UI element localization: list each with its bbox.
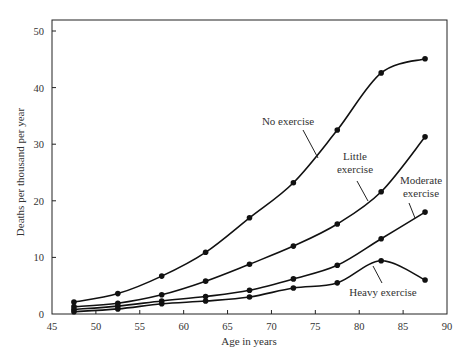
y-tick-label: 50 [34, 26, 45, 37]
x-tick-label: 70 [266, 321, 277, 332]
data-point [71, 309, 77, 315]
x-tick-label: 50 [91, 321, 102, 332]
chart-series [71, 56, 428, 315]
y-tick-label: 30 [34, 139, 45, 150]
data-point [291, 180, 297, 186]
data-point [291, 285, 297, 291]
data-point [291, 243, 297, 249]
data-point [378, 70, 384, 76]
line-chart: 4550556065707580859001020304050 No exerc… [0, 0, 467, 358]
data-point [247, 294, 253, 300]
data-point [422, 56, 428, 62]
x-tick-label: 90 [442, 321, 453, 332]
data-point [334, 280, 340, 286]
pointer-line [373, 266, 382, 283]
data-point [203, 250, 209, 256]
data-point [334, 263, 340, 269]
x-axis-label: Age in years [221, 335, 277, 347]
y-tick-label: 0 [39, 309, 44, 320]
pointer-line [303, 130, 318, 158]
x-tick-label: 55 [135, 321, 146, 332]
y-tick-label: 10 [34, 252, 45, 263]
data-point [115, 306, 121, 312]
series-labels: No exerciseLittleexerciseModerateexercis… [262, 115, 442, 298]
x-tick-label: 80 [354, 321, 365, 332]
series-label-no-exercise: No exercise [262, 115, 314, 127]
plot-frame [52, 20, 447, 314]
data-point [378, 258, 384, 264]
y-tick-label: 40 [34, 83, 45, 94]
data-point [334, 221, 340, 227]
data-point [378, 189, 384, 195]
pointer-line [409, 203, 415, 218]
series-little-exercise [71, 134, 428, 309]
x-tick-label: 45 [47, 321, 58, 332]
data-point [422, 134, 428, 140]
data-point [291, 276, 297, 282]
data-point [247, 287, 253, 293]
x-tick-label: 85 [398, 321, 409, 332]
data-point [247, 215, 253, 221]
data-point [159, 292, 165, 298]
data-point [378, 236, 384, 242]
data-point [203, 298, 209, 304]
data-point [422, 277, 428, 283]
data-point [159, 301, 165, 307]
y-tick-label: 20 [34, 196, 45, 207]
pointer-line [357, 181, 368, 201]
x-tick-label: 60 [178, 321, 189, 332]
series-label-moderate-exercise: Moderateexercise [400, 174, 442, 199]
x-tick-label: 65 [222, 321, 233, 332]
series-label-little-exercise: Littleexercise [337, 150, 373, 175]
data-point [247, 261, 253, 267]
data-point [422, 209, 428, 215]
series-label-heavy-exercise: Heavy exercise [349, 286, 417, 298]
data-point [334, 127, 340, 133]
data-point [203, 278, 209, 284]
data-point [159, 273, 165, 279]
x-tick-label: 75 [310, 321, 321, 332]
y-axis-label: Deaths per thousand per year [14, 108, 26, 237]
data-point [115, 291, 121, 297]
